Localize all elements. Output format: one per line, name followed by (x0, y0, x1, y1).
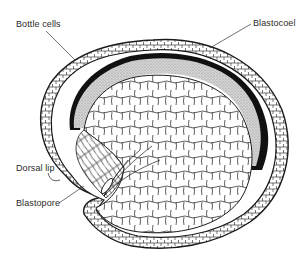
leader-bottle-cells (46, 31, 75, 60)
leader-blastocoel (210, 24, 251, 48)
gastrula-diagram (0, 0, 308, 267)
label-dorsal-lip: Dorsal lip (16, 163, 55, 173)
label-bottle-cells: Bottle cells (16, 19, 61, 29)
label-blastopore: Blastopore (16, 198, 60, 208)
leader-blastopore (59, 186, 84, 203)
leader-dorsal-lip (48, 173, 60, 181)
label-blastocoel: Blastocoel (253, 18, 296, 28)
